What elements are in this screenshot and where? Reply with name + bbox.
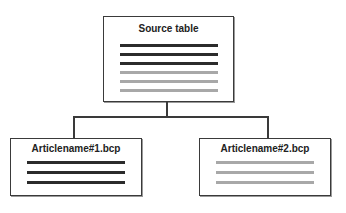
source-row-light-2	[120, 80, 218, 83]
connector-horizontal	[73, 116, 268, 118]
target-1-title: Articlename#1.bcp	[11, 143, 141, 154]
connector-right-branch	[267, 116, 269, 138]
target-1-row-2	[27, 171, 125, 174]
target-box-2: Articlename#2.bcp	[199, 138, 331, 196]
source-row-dark-2	[120, 53, 218, 56]
target-2-title: Articlename#2.bcp	[200, 143, 330, 154]
target-box-1: Articlename#1.bcp	[10, 138, 142, 196]
source-row-light-3	[120, 89, 218, 92]
target-1-row-1	[27, 161, 125, 164]
source-row-dark-1	[120, 44, 218, 47]
source-row-light-1	[120, 71, 218, 74]
target-2-row-2	[216, 171, 314, 174]
target-2-row-3	[216, 181, 314, 184]
connector-left-branch	[73, 116, 75, 138]
source-table-box: Source table	[103, 16, 234, 102]
source-table-title: Source table	[104, 23, 233, 34]
target-2-row-1	[216, 161, 314, 164]
source-row-dark-3	[120, 62, 218, 65]
target-1-row-3	[27, 181, 125, 184]
connector-trunk	[166, 102, 168, 117]
